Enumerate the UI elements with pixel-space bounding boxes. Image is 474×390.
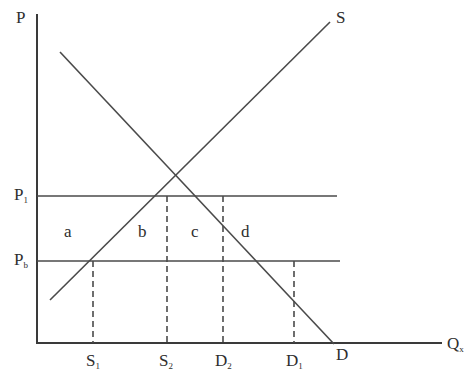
pb-sub: b	[23, 260, 28, 270]
s2-sub: 2	[168, 361, 173, 371]
quantity-axis-sub: x	[459, 344, 464, 354]
region-d: d	[241, 223, 250, 240]
p1-sub: 1	[23, 195, 28, 205]
quantity-label-s2: S2	[159, 352, 173, 371]
quantity-axis-main: Q	[447, 334, 459, 353]
supply-label: S	[336, 9, 345, 26]
demand-label: D	[336, 346, 348, 363]
region-b: b	[138, 223, 147, 240]
s1-sub: 1	[95, 361, 100, 371]
d1-main: D	[286, 351, 298, 370]
d2-sub: 2	[227, 361, 232, 371]
supply-curve	[50, 22, 330, 300]
quantity-label-d1: D1	[286, 352, 303, 371]
quantity-label-d2: D2	[215, 352, 232, 371]
demand-curve	[60, 52, 334, 344]
price-label-pb: Pb	[14, 251, 28, 270]
price-axis-label: P	[16, 9, 25, 26]
quantity-label-s1: S1	[86, 352, 100, 371]
supply-demand-diagram	[0, 0, 474, 390]
region-c: c	[191, 223, 199, 240]
quantity-axis-label: Qx	[447, 335, 464, 354]
d2-main: D	[215, 351, 227, 370]
price-label-p1: P1	[14, 186, 28, 205]
region-a: a	[64, 223, 72, 240]
d1-sub: 1	[298, 361, 303, 371]
